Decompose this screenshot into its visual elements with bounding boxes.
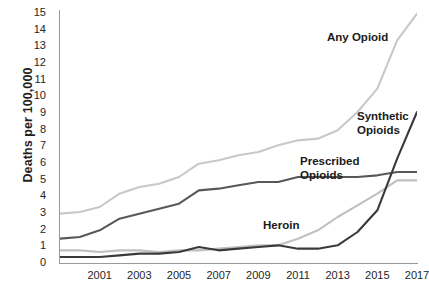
x-tick-label: 2011 xyxy=(286,269,310,282)
series-line-heroin xyxy=(60,180,417,252)
series-line-prescribed-opioids xyxy=(60,172,417,239)
x-tick-label: 2017 xyxy=(405,269,429,282)
plot-area xyxy=(60,12,417,262)
y-tick-label: 15 xyxy=(34,7,46,18)
x-axis-line xyxy=(59,263,418,264)
y-tick-label: 13 xyxy=(34,40,46,51)
series-label-heroin: Heroin xyxy=(263,219,299,233)
y-tick-label: 5 xyxy=(40,173,46,184)
x-tick-label: 2003 xyxy=(127,269,151,282)
x-tick-label: 2009 xyxy=(246,269,270,282)
y-tick-label: 12 xyxy=(34,57,46,68)
series-lines xyxy=(60,12,417,262)
y-tick-label: 10 xyxy=(34,90,46,101)
x-tick-label: 2015 xyxy=(365,269,389,282)
y-tick-label: 1 xyxy=(40,240,46,251)
x-tick-label: 2005 xyxy=(167,269,191,282)
y-tick-label: 3 xyxy=(40,207,46,218)
clipped-chart-title xyxy=(150,0,380,2)
y-tick-label: 11 xyxy=(35,73,46,84)
series-label-synthetic-opioids: Synthetic Opioids xyxy=(357,110,409,137)
y-tick-label: 8 xyxy=(40,123,46,134)
y-tick-label: 14 xyxy=(34,23,46,34)
series-label-prescribed-opioids: Prescribed Opioids xyxy=(300,155,359,182)
y-tick-label: 7 xyxy=(40,140,46,151)
y-tick-label: 6 xyxy=(40,157,46,168)
x-tick-label: 2013 xyxy=(325,269,349,282)
x-tick-label: 2001 xyxy=(87,269,111,282)
y-tick-label: 0 xyxy=(40,257,46,268)
y-tick-label: 2 xyxy=(40,223,46,234)
y-tick-label: 4 xyxy=(40,190,46,201)
y-tick-label: 9 xyxy=(40,107,46,118)
x-tick-label: 2007 xyxy=(206,269,230,282)
y-axis-tick-labels: 0123456789101112131415 xyxy=(20,0,46,292)
series-label-any-opioid: Any Opioid xyxy=(327,31,388,45)
x-axis-tick-labels: 200120032005200720092011201320152017 xyxy=(0,269,422,289)
